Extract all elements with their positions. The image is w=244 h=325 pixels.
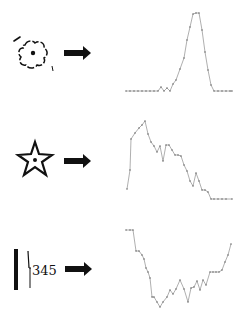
plot-point [186,170,188,172]
plot-point [133,90,135,92]
plot-point [177,154,179,156]
plot-point [172,293,174,295]
plot-point [145,90,147,92]
plot-point [210,198,212,200]
plot-point [145,267,147,269]
plot-point [202,279,204,281]
plot-point [172,83,174,85]
profile-plot-early-peak [126,120,233,200]
figure-canvas: 345 [0,0,244,325]
plot-point [126,188,128,190]
plot-point [231,198,233,200]
plot-point [141,254,143,256]
plot-point [156,151,158,153]
plot-point [190,287,192,289]
right-arrow-icon [64,154,91,168]
plot-point [159,145,161,147]
plot-point [213,90,215,92]
plot-point [183,164,185,166]
plot-point [225,90,227,92]
plot-point [204,189,206,191]
plot-point [210,84,212,86]
flower-outline-with-dot-icon [14,37,53,71]
plot-point [169,90,171,92]
plot-point [209,271,211,273]
plot-line [126,13,232,91]
plot-point [195,172,197,174]
plot-line [126,230,231,307]
plot-point [137,90,139,92]
plot-point [169,289,171,291]
plot-point [207,69,209,71]
plot-line [127,121,232,199]
plot-point [166,87,168,89]
plot-point [166,296,168,298]
plot-point [129,90,131,92]
plot-point [215,271,217,273]
plot-point [160,86,162,88]
plot-point [192,13,194,15]
plot-point [230,243,232,245]
plot-point [141,124,143,126]
plot-point [150,141,152,143]
plot-point [138,127,140,129]
plot-point [135,250,137,252]
plot-point [179,279,181,281]
plot-point [151,296,153,298]
plot-point [153,145,155,147]
right-arrow-icon [64,46,91,60]
plot-point [179,68,181,70]
handwritten-label: 345 [32,263,57,278]
plot-point [198,12,200,14]
profile-plot-valley [125,229,232,308]
plot-point [132,229,134,231]
plot-point [141,90,143,92]
plot-point [205,284,207,286]
plot-point [207,191,209,193]
plot-point [149,277,151,279]
plot-point [212,271,214,273]
plot-point [174,154,176,156]
star-outline-with-dot-icon [18,142,52,175]
plot-point [198,180,200,182]
plot-point [217,198,219,200]
plot-point [175,79,177,81]
plot-point [147,271,149,273]
plot-point [196,280,198,282]
plot-point [193,286,195,288]
plot-point [129,169,131,171]
plot-point [162,160,164,162]
plot-point [165,144,167,146]
plot-point [130,138,132,140]
plot-point [143,258,145,260]
plot-point [157,90,159,92]
plot-point [153,90,155,92]
plot-point [204,51,206,53]
plot-point [201,189,203,191]
plot-point [218,271,220,273]
plot-point [125,229,127,231]
plot-point [224,261,226,263]
plot-point [162,301,164,303]
plot-point [171,149,173,151]
plot-point [183,288,185,290]
plot-point [149,90,151,92]
plot-point [156,301,158,303]
plot-point [187,301,189,303]
vertical-bar-icon [14,249,31,290]
plot-point [201,29,203,31]
plot-point [159,306,161,308]
plot-point [231,90,233,92]
plot-point [129,229,131,231]
plot-point [195,12,197,14]
plot-point [138,250,140,252]
plot-point [183,57,185,59]
plot-point [180,155,182,157]
plot-point [134,132,136,134]
plot-point [163,90,165,92]
plot-point [186,39,188,41]
plot-point [175,288,177,290]
plot-point [192,185,194,187]
plot-point [229,90,231,92]
plot-point [213,198,215,200]
